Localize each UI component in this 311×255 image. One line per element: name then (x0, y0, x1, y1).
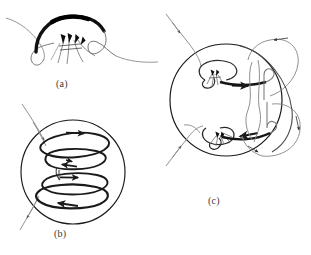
panel-c-left-bracket (184, 125, 200, 133)
panel-a-arrow-spikes (61, 33, 86, 45)
panel-c-upper-main-arrow (232, 85, 248, 86)
panel-label-b: (b) (54, 228, 66, 239)
panel-a-left-loop (31, 43, 54, 65)
panel-b-helix-turn-1 (40, 133, 109, 158)
panel-b-helix-arrow-2 (62, 164, 77, 166)
panel-c-outer-loop-upper (270, 39, 298, 96)
panel-c-inner-vertical-a (246, 62, 252, 140)
panel-c-lower-hook (267, 102, 277, 133)
panel-a-right-limb (88, 31, 116, 56)
panel-c-outer-sweep (240, 46, 292, 152)
panel-c-inner-vertical-b (254, 60, 261, 142)
panel-label-c: (c) (208, 195, 220, 206)
panel-c-inflow-lower-tail (189, 126, 203, 136)
panel-a-apex-arc-highlight (52, 17, 88, 22)
panel-a-graphic (6, 16, 158, 65)
panel-c-inflow-upper-arrow (172, 22, 180, 33)
panel-c-graphic (166, 14, 300, 166)
panel-b-graphic (20, 104, 125, 230)
panel-b-helix-arrow-1 (66, 133, 84, 134)
panel-b-inner-tick-arrow (66, 160, 72, 162)
panel-b-thread-lower-arrow (27, 200, 37, 218)
panel-a-apex-arc (36, 16, 104, 52)
panel-c-inflow-lower-arrow (172, 146, 181, 158)
panel-b-helix-arrow-4 (58, 203, 78, 206)
panel-label-a: (a) (56, 78, 68, 89)
figure-root: (a) (b) (c) (0, 0, 311, 255)
panel-a-right-tail (116, 56, 158, 62)
figure-canvas (0, 0, 311, 255)
